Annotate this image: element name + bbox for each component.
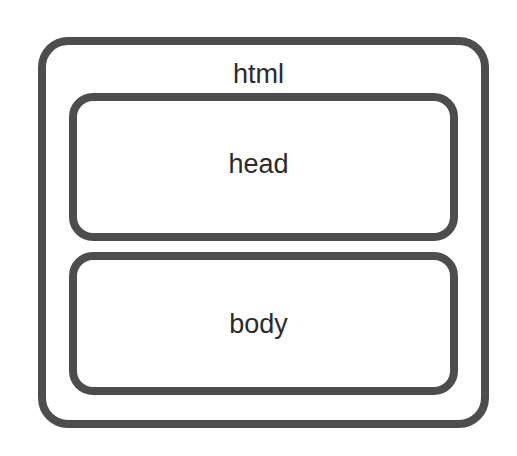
html-label: html [0,61,517,88]
body-label: body [0,311,517,338]
head-label: head [0,151,517,178]
